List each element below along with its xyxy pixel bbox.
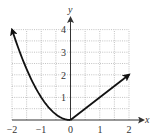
y-tick-label: 1 (61, 92, 66, 103)
piecewise-function-graph: x y −2 −1 0 1 2 1 2 3 4 (0, 0, 151, 136)
x-tick-label: 1 (98, 124, 103, 135)
y-tick-label: 2 (61, 70, 66, 81)
y-tick-label: 3 (61, 47, 66, 58)
x-tick-label: 0 (68, 124, 73, 135)
x-tick-label: 2 (127, 124, 132, 135)
x-axis-label: x (144, 114, 150, 125)
y-axis-label: y (67, 4, 73, 15)
x-tick-labels: −2 −1 0 1 2 (7, 124, 132, 135)
x-tick-label: −2 (7, 124, 18, 135)
y-tick-label: 4 (61, 24, 66, 35)
x-tick-label: −1 (36, 124, 47, 135)
